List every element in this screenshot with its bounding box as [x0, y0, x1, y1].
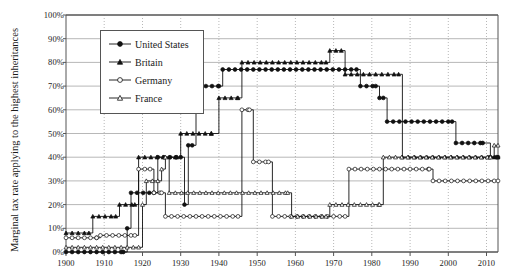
- data-point: [190, 143, 194, 147]
- data-point: [325, 68, 329, 72]
- data-point: [265, 191, 269, 195]
- data-point: [210, 191, 214, 195]
- data-point: [271, 191, 275, 195]
- data-point: [353, 167, 357, 171]
- data-point: [307, 68, 311, 72]
- data-point: [147, 191, 151, 195]
- legend-item-france[interactable]: France: [101, 89, 203, 107]
- data-point: [450, 120, 454, 124]
- data-point: [472, 141, 476, 145]
- data-point: [233, 68, 237, 72]
- data-point: [319, 68, 323, 72]
- data-point: [240, 108, 244, 112]
- data-point: [129, 234, 133, 238]
- data-point: [95, 250, 99, 254]
- legend-marker-open-triangle-icon: [107, 91, 133, 105]
- data-point: [258, 68, 262, 72]
- data-point: [347, 167, 351, 171]
- data-point: [210, 84, 214, 88]
- data-point: [133, 234, 137, 238]
- data-point: [404, 120, 408, 124]
- data-point: [402, 167, 406, 171]
- data-point: [390, 167, 394, 171]
- data-point: [141, 191, 145, 195]
- data-point: [192, 191, 196, 195]
- data-point: [227, 68, 231, 72]
- data-point: [64, 250, 68, 254]
- legend-item-britain[interactable]: Britain: [101, 53, 203, 71]
- data-point: [474, 179, 478, 183]
- data-point: [236, 215, 240, 219]
- data-point: [167, 191, 171, 195]
- data-point: [241, 191, 245, 195]
- data-point: [186, 191, 190, 195]
- data-point: [277, 215, 281, 219]
- data-point: [391, 120, 395, 124]
- legend-item-germany[interactable]: Germany: [101, 71, 203, 89]
- data-point: [416, 120, 420, 124]
- legend-label: United States: [133, 39, 189, 50]
- data-point: [170, 215, 174, 219]
- data-point: [343, 215, 347, 219]
- data-point: [355, 68, 359, 72]
- data-point: [176, 215, 180, 219]
- data-point: [258, 160, 262, 164]
- data-point: [381, 96, 385, 100]
- data-point: [206, 215, 210, 219]
- data-point: [173, 191, 177, 195]
- data-point: [247, 191, 251, 195]
- data-point: [427, 167, 431, 171]
- data-point: [83, 250, 87, 254]
- legend: United StatesBritainGermanyFrance: [100, 30, 204, 114]
- data-point: [313, 68, 317, 72]
- data-point: [332, 215, 336, 219]
- data-point: [64, 236, 68, 240]
- legend-label: Germany: [133, 75, 172, 86]
- data-point: [183, 203, 187, 207]
- data-point: [222, 191, 226, 195]
- data-point: [70, 250, 74, 254]
- data-point: [492, 179, 496, 183]
- data-point: [188, 215, 192, 219]
- data-point: [217, 84, 221, 88]
- data-point: [300, 68, 304, 72]
- series-france: [64, 143, 500, 249]
- data-point: [76, 250, 80, 254]
- data-point: [365, 84, 369, 88]
- data-point: [378, 96, 382, 100]
- data-point: [253, 191, 257, 195]
- data-point: [428, 120, 432, 124]
- data-point: [239, 68, 243, 72]
- data-point: [204, 84, 208, 88]
- data-point: [282, 68, 286, 72]
- legend-label: Britain: [133, 57, 163, 68]
- plot-svg: [0, 0, 505, 279]
- data-point: [267, 160, 271, 164]
- legend-item-united-states[interactable]: United States: [101, 35, 203, 53]
- data-point: [443, 179, 447, 183]
- data-point: [462, 179, 466, 183]
- data-point: [105, 234, 109, 238]
- data-point: [216, 191, 220, 195]
- legend-label: France: [133, 93, 162, 104]
- legend-marker-filled-triangle-icon: [107, 55, 133, 69]
- data-point: [331, 68, 335, 72]
- data-point: [152, 191, 156, 195]
- data-point: [466, 141, 470, 145]
- data-point: [107, 250, 111, 254]
- data-point: [414, 167, 418, 171]
- data-point: [76, 236, 80, 240]
- data-point: [221, 68, 225, 72]
- data-point: [101, 250, 105, 254]
- data-point: [219, 215, 223, 219]
- data-point: [276, 68, 280, 72]
- data-point: [437, 179, 441, 183]
- data-point: [194, 215, 198, 219]
- data-point: [83, 236, 87, 240]
- data-point: [378, 167, 382, 171]
- data-point: [143, 167, 147, 171]
- data-point: [248, 108, 252, 112]
- data-point: [264, 68, 268, 72]
- data-point: [286, 191, 290, 195]
- data-point: [200, 215, 204, 219]
